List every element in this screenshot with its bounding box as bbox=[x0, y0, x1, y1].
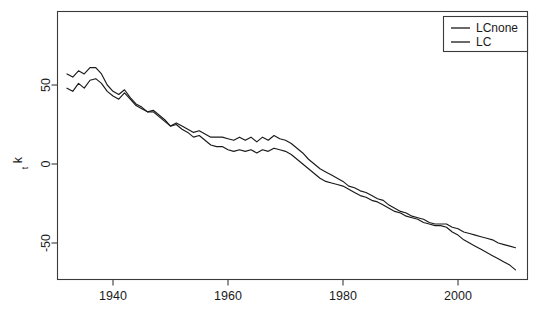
legend-label-lc: LC bbox=[476, 35, 492, 49]
kt-line-chart: 1940196019802000 500-50 k t LCnone LC bbox=[0, 0, 542, 312]
legend-label-lcnone: LCnone bbox=[476, 21, 518, 35]
chart-container: 1940196019802000 500-50 k t LCnone LC bbox=[0, 0, 542, 312]
y-axis-title-base: k bbox=[11, 156, 25, 163]
y-axis-title: k t bbox=[11, 156, 30, 169]
y-axis-tick-labels: 500-50 bbox=[39, 78, 53, 252]
x-tick-label: 1980 bbox=[329, 289, 357, 303]
y-axis-title-subscript: t bbox=[20, 166, 30, 169]
y-tick-label: -50 bbox=[39, 234, 53, 252]
x-tick-label: 1960 bbox=[214, 289, 242, 303]
x-axis-tick-labels: 1940196019802000 bbox=[99, 289, 472, 303]
x-tick-label: 2000 bbox=[444, 289, 472, 303]
x-axis-ticks bbox=[113, 280, 458, 286]
series-lines bbox=[67, 68, 516, 270]
y-tick-label: 0 bbox=[39, 160, 53, 167]
x-tick-label: 1940 bbox=[99, 289, 127, 303]
legend[interactable]: LCnone LC bbox=[444, 17, 528, 52]
series-line-lcnone bbox=[67, 68, 516, 248]
series-line-lc bbox=[67, 79, 516, 270]
y-tick-label: 50 bbox=[39, 78, 53, 92]
